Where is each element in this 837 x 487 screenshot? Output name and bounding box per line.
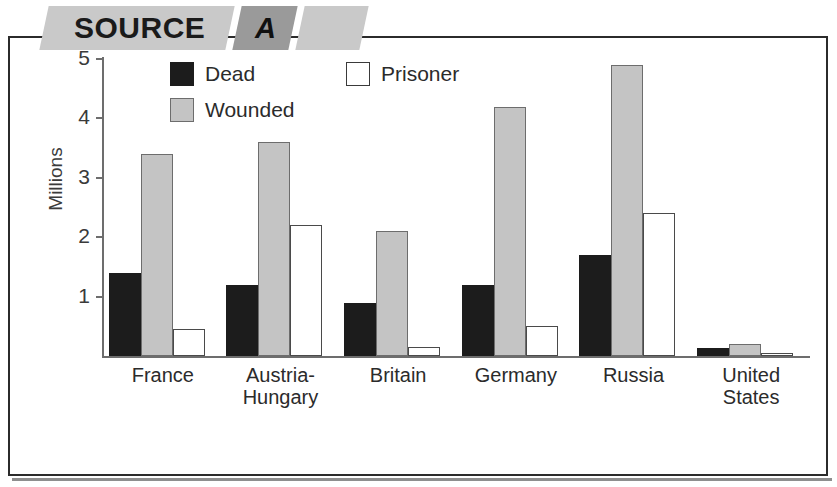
source-banner-label: SOURCE bbox=[74, 11, 205, 45]
figure-frame-shadow bbox=[12, 478, 832, 481]
x-axis-label-line: Germany bbox=[457, 364, 575, 386]
y-axis-tick-label: 5 bbox=[50, 47, 90, 68]
legend-label-wounded: Wounded bbox=[205, 98, 295, 122]
x-axis-label: Britain bbox=[339, 364, 457, 386]
source-banner-main: SOURCE bbox=[39, 6, 234, 50]
chart-area: 12345 Millions FranceAustria-HungaryBrit… bbox=[0, 0, 820, 436]
bar-prisoner-britain bbox=[408, 347, 440, 356]
bar-dead-france bbox=[109, 273, 141, 356]
y-axis-tick bbox=[96, 58, 104, 60]
bar-prisoner-united-states bbox=[761, 353, 793, 356]
x-axis-label: France bbox=[104, 364, 222, 386]
bar-wounded-russia bbox=[611, 65, 643, 356]
y-axis-tick bbox=[96, 236, 104, 238]
bar-dead-germany bbox=[462, 285, 494, 356]
source-banner-letter: A bbox=[255, 12, 276, 45]
bar-wounded-france bbox=[141, 154, 173, 356]
bar-prisoner-germany bbox=[526, 326, 558, 356]
source-banner-tail bbox=[295, 6, 368, 50]
x-axis-label: Germany bbox=[457, 364, 575, 386]
source-banner: SOURCE A bbox=[44, 6, 364, 50]
x-axis-label: UnitedStates bbox=[692, 364, 810, 409]
legend-item-prisoner: Prisoner bbox=[346, 62, 459, 86]
x-axis-label-line: Britain bbox=[339, 364, 457, 386]
x-axis-label-line: France bbox=[104, 364, 222, 386]
bar-wounded-germany bbox=[494, 107, 526, 356]
legend-item-dead: Dead bbox=[170, 62, 255, 86]
x-axis-label-line: Hungary bbox=[222, 386, 340, 408]
legend-label-dead: Dead bbox=[205, 62, 255, 86]
x-axis-label-line: United bbox=[692, 364, 810, 386]
x-axis-label-line: Austria- bbox=[222, 364, 340, 386]
bar-wounded-britain bbox=[376, 231, 408, 356]
x-axis-label-line: Russia bbox=[575, 364, 693, 386]
legend-label-prisoner: Prisoner bbox=[381, 62, 459, 86]
y-axis-tick bbox=[96, 177, 104, 179]
bar-dead-austria-hungary bbox=[226, 285, 258, 356]
bar-prisoner-austria-hungary bbox=[290, 225, 322, 356]
bar-wounded-austria-hungary bbox=[258, 142, 290, 356]
bar-dead-russia bbox=[579, 255, 611, 356]
y-axis-tick-label: 1 bbox=[50, 285, 90, 306]
bar-dead-united-states bbox=[697, 348, 729, 356]
x-axis-label: Austria-Hungary bbox=[222, 364, 340, 409]
legend-item-wounded: Wounded bbox=[170, 98, 295, 122]
chart-legend: Dead Wounded Prisoner bbox=[170, 62, 600, 134]
y-axis-title: Millions bbox=[45, 119, 67, 239]
y-axis-tick bbox=[96, 117, 104, 119]
source-banner-letter-block: A bbox=[232, 6, 297, 50]
gray-square-icon bbox=[170, 98, 194, 122]
white-square-icon bbox=[346, 62, 370, 86]
x-axis-label: Russia bbox=[575, 364, 693, 386]
bar-group bbox=[692, 57, 810, 356]
x-axis-label-line: States bbox=[692, 386, 810, 408]
y-axis-tick bbox=[96, 296, 104, 298]
black-square-icon bbox=[170, 62, 194, 86]
bar-prisoner-russia bbox=[643, 213, 675, 356]
bar-prisoner-france bbox=[173, 329, 205, 356]
bar-wounded-united-states bbox=[729, 344, 761, 356]
x-axis-line bbox=[102, 356, 810, 358]
bar-dead-britain bbox=[344, 303, 376, 356]
